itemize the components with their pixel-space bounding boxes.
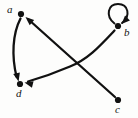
- edge-layer: [13, 4, 130, 97]
- edge-a-d: [13, 19, 20, 77]
- node-label-a: a: [7, 4, 13, 15]
- arrowhead-b-b: [122, 16, 130, 24]
- node-label-b: b: [124, 27, 130, 38]
- node-a: [18, 11, 24, 17]
- arrowhead-b-d: [25, 81, 34, 88]
- arrowhead-a-d: [13, 72, 20, 81]
- graph-canvas: [0, 0, 138, 118]
- directed-graph-figure: abcd: [0, 0, 138, 118]
- edge-b-d: [28, 31, 115, 82]
- node-b: [115, 23, 121, 29]
- node-label-d: d: [16, 88, 22, 99]
- node-label-c: c: [115, 104, 120, 115]
- edge-c-a: [29, 20, 116, 98]
